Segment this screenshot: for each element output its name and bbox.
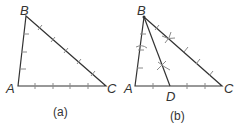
vertex-label-b: B [20,3,29,18]
tick-marks [20,25,95,89]
triangle-diagrams: B A C (a) [0,0,241,128]
vertex-label-b: B [137,3,146,18]
vertex-label-d: D [166,89,175,104]
figure-b: B A D C (b) [123,3,234,123]
caption-b: (b) [170,109,185,123]
vertex-label-c: C [107,81,117,96]
vertex-label-a: A [123,81,133,96]
tick-marks [137,25,213,89]
vertex-label-c: C [224,81,234,96]
vertex-label-a: A [5,81,15,96]
figure-a: B A C (a) [5,3,117,119]
triangle-abc [18,16,106,86]
caption-a: (a) [53,105,68,119]
